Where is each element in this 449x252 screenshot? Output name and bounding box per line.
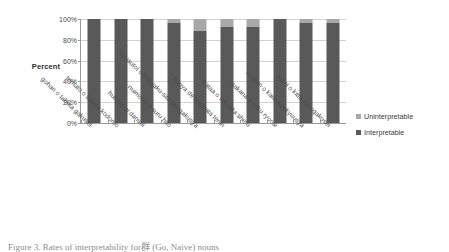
- legend-label-uninterpretable: Uninterpretable: [364, 112, 413, 121]
- bar-segment-uninterpretable[interactable]: [220, 19, 233, 27]
- figure-container: Percent 0%20%40%60%80%100% gohan o tabet…: [0, 0, 449, 252]
- bar-slot: [320, 19, 347, 123]
- legend-item-interpretable[interactable]: Interpretable: [356, 128, 446, 137]
- bar-segment-uninterpretable[interactable]: [194, 19, 207, 31]
- chart-legend: Uninterpretable Interpretable: [356, 112, 446, 144]
- y-axis-tick-mark: [78, 123, 81, 124]
- y-axis-title: Percent: [12, 62, 60, 71]
- legend-item-uninterpretable[interactable]: Uninterpretable: [356, 112, 446, 121]
- y-axis-tick-label: 100%: [59, 16, 77, 23]
- bar-segment-uninterpretable[interactable]: [247, 19, 260, 27]
- figure-caption: Figure 3. Rates of interpretability for群…: [8, 240, 438, 252]
- stacked-bar[interactable]: [326, 19, 339, 123]
- legend-swatch-uninterpretable-icon: [356, 114, 361, 119]
- bar-segment-interpretable[interactable]: [326, 23, 339, 123]
- y-axis-tick-label: 0%: [67, 120, 77, 127]
- legend-swatch-interpretable-icon: [356, 130, 361, 135]
- y-axis-tick-label: 60%: [63, 57, 77, 64]
- y-axis-tick-label: 80%: [63, 36, 77, 43]
- legend-label-interpretable: Interpretable: [364, 128, 404, 137]
